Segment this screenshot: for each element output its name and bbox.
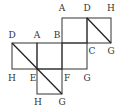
- face-top-left: [62, 18, 87, 43]
- vertex-label: D: [8, 30, 15, 40]
- vertex-label: C: [89, 46, 96, 56]
- vertex-label: G: [58, 97, 65, 107]
- vertex-label: F: [64, 73, 70, 83]
- vertex-label: B: [54, 30, 61, 40]
- cube-net-diagram: A D H D A B C G H E F G H G: [0, 0, 124, 110]
- face-middle-2: [37, 43, 62, 69]
- vertex-label: A: [33, 30, 41, 40]
- vertex-label: D: [83, 3, 90, 13]
- face-middle-3: [62, 43, 87, 69]
- vertex-label: G: [83, 73, 90, 83]
- vertex-label: H: [34, 97, 42, 107]
- vertex-label: H: [107, 3, 115, 13]
- vertex-label: G: [107, 46, 114, 56]
- vertex-label: E: [30, 73, 37, 83]
- vertex-label: H: [8, 73, 16, 83]
- diagonal-DG-top: [87, 18, 111, 43]
- vertex-label: A: [58, 3, 66, 13]
